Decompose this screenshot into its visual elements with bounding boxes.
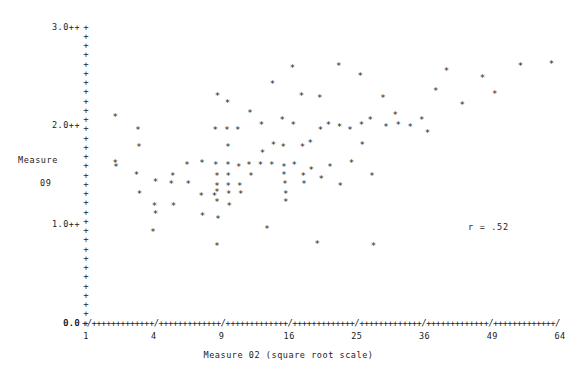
x-axis-tick-label: 36	[413, 332, 437, 341]
data-point: *	[392, 112, 399, 119]
data-point: *	[168, 181, 175, 188]
data-point: *	[418, 117, 425, 124]
data-point: *	[213, 173, 220, 180]
data-point: *	[225, 191, 232, 198]
x-axis-tick-label: 64	[548, 332, 572, 341]
plot-area: +++++++++++++++++++++++++++++++++0.01.0+…	[0, 0, 577, 372]
data-point: *	[112, 114, 119, 121]
data-point: *	[214, 93, 221, 100]
data-point: *	[223, 127, 230, 134]
x-axis-tick-label: 16	[277, 332, 301, 341]
data-point: *	[215, 216, 222, 223]
data-point: *	[269, 81, 276, 88]
data-point: *	[348, 160, 355, 167]
data-point: *	[234, 127, 241, 134]
text-mode-scatter-plot: Measure 09 Measure 02 (square root scale…	[0, 0, 577, 372]
y-axis-tick-label: 2.0++	[34, 121, 80, 130]
y-axis-tick-glyph: +	[82, 124, 91, 133]
data-point: *	[224, 100, 231, 107]
y-axis-tick-label: 1.0++	[34, 220, 80, 229]
x-axis-tick-label: 1	[74, 332, 98, 341]
data-point: *	[307, 140, 314, 147]
data-point: *	[290, 122, 297, 129]
data-point: *	[282, 199, 289, 206]
data-point: *	[225, 162, 232, 169]
data-point: *	[279, 117, 286, 124]
data-point: *	[335, 63, 342, 70]
y-axis-tick-glyph: +	[82, 235, 91, 244]
data-point: *	[134, 127, 141, 134]
data-point: *	[264, 226, 271, 233]
data-point: *	[367, 117, 374, 124]
data-point: *	[270, 142, 277, 149]
data-point: *	[198, 160, 205, 167]
data-point: *	[347, 127, 354, 134]
y-axis-tick-label: 3.0++	[34, 23, 80, 32]
data-point: *	[318, 176, 325, 183]
data-point: *	[281, 172, 288, 179]
data-point: *	[185, 181, 192, 188]
data-point: *	[407, 124, 414, 131]
data-point: *	[281, 181, 288, 188]
y-axis-origin-label: 0.0	[34, 319, 80, 328]
data-point: *	[357, 73, 364, 80]
data-point: *	[459, 102, 466, 109]
data-point: *	[314, 241, 321, 248]
data-point: *	[316, 95, 323, 102]
data-point: *	[213, 199, 220, 206]
data-point: *	[291, 162, 298, 169]
data-point: *	[325, 122, 332, 129]
data-point: *	[337, 183, 344, 190]
y-axis-tick-glyph: +	[82, 198, 91, 207]
data-point: *	[280, 144, 287, 151]
y-axis-tick-glyph: +	[82, 309, 91, 318]
data-point: *	[245, 162, 252, 169]
data-point: *	[432, 88, 439, 95]
data-point: *	[235, 164, 242, 171]
data-point: *	[152, 179, 159, 186]
y-axis-tick-glyph: +	[82, 50, 91, 59]
y-axis-tick-glyph: +	[82, 272, 91, 281]
data-point: *	[133, 172, 140, 179]
data-point: *	[491, 91, 498, 98]
data-point: *	[112, 164, 119, 171]
data-point: *	[479, 75, 486, 82]
x-axis-tick-label: 25	[345, 332, 369, 341]
data-point: *	[136, 191, 143, 198]
data-point: *	[308, 167, 315, 174]
data-point: *	[424, 130, 431, 137]
x-axis-tick-label: 9	[209, 332, 233, 341]
data-point: *	[246, 110, 253, 117]
data-point: *	[327, 164, 334, 171]
data-point: *	[237, 191, 244, 198]
data-point: *	[152, 211, 159, 218]
data-point: *	[369, 173, 376, 180]
data-point: *	[358, 122, 365, 129]
data-point: *	[370, 243, 377, 250]
data-point: *	[268, 162, 275, 169]
data-point: *	[226, 203, 233, 210]
data-point: *	[136, 144, 143, 151]
data-point: *	[299, 144, 306, 151]
data-point: *	[298, 93, 305, 100]
x-axis-line: +/+++++++++++++/+++++++++++++/++++++++++…	[82, 319, 560, 328]
data-point: *	[169, 173, 176, 180]
data-point: *	[289, 65, 296, 72]
data-point: *	[247, 173, 254, 180]
data-point: *	[224, 144, 231, 151]
data-point: *	[198, 193, 205, 200]
data-point: *	[212, 162, 219, 169]
data-point: *	[170, 203, 177, 210]
data-point: *	[383, 124, 390, 131]
data-point: *	[336, 124, 343, 131]
data-point: *	[259, 150, 266, 157]
data-point: *	[212, 127, 219, 134]
data-point: *	[300, 181, 307, 188]
data-point: *	[257, 162, 264, 169]
data-point: *	[548, 61, 555, 68]
data-point: *	[395, 122, 402, 129]
y-axis-tick-glyph: +	[82, 161, 91, 170]
data-point: *	[213, 189, 220, 196]
data-point: *	[317, 127, 324, 134]
data-point: *	[213, 243, 220, 250]
